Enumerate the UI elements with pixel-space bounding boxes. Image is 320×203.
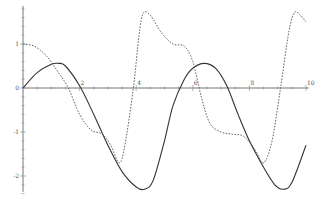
y-tick-label: 0	[15, 84, 19, 91]
x-tick-label: 4	[137, 79, 141, 86]
y-tick-label: -2	[13, 172, 19, 179]
series-solid-line	[23, 63, 306, 190]
x-tick-label: 6	[194, 79, 198, 86]
x-tick-label: 2	[81, 79, 85, 86]
y-tick-label: -1	[13, 128, 19, 135]
y-tick-label: 1	[15, 40, 19, 47]
x-tick-label: 8	[250, 79, 254, 86]
x-tick-label: 10	[307, 79, 315, 86]
tick-labels: 24681010-1-2	[13, 40, 315, 179]
axes	[20, 6, 309, 194]
series-layer	[23, 11, 306, 189]
line-chart: 24681010-1-2	[0, 0, 320, 203]
